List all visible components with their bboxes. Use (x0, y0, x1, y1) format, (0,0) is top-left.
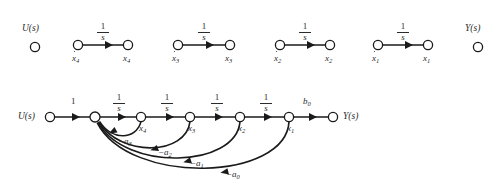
arrowhead-x3-to-x2 (215, 113, 223, 121)
top-node-xdot3 (173, 40, 182, 49)
node-y (328, 112, 337, 121)
top-label-x4: x4 (123, 54, 130, 64)
top-input-node (30, 42, 39, 51)
arrowhead-u-to-sum (72, 113, 80, 121)
bottom-gain-denominator-2: s (211, 104, 223, 113)
bottom-gain-denominator-4: s (113, 104, 125, 113)
top-gain-numerator-4: 1 (97, 22, 109, 31)
top-gain-fraction-1: 1 s (397, 22, 409, 43)
top-node-x1 (423, 40, 432, 49)
top-gain-numerator-3: 1 (198, 22, 210, 31)
bottom-gain-fraction-3: 1 s (161, 93, 173, 114)
bottom-gain-numerator-4: 1 (113, 93, 125, 102)
feedback-arrowhead-a3 (109, 127, 118, 134)
top-node-xdot1 (373, 40, 382, 49)
feedback-label-a2: −a2 (158, 148, 172, 158)
top-node-xdot4 (73, 40, 82, 49)
node-sum (90, 112, 100, 122)
top-label-xdot3: x3 (172, 54, 179, 64)
arrowhead-sum-to-x4 (118, 113, 126, 121)
bottom-label-x2: x2 (238, 124, 245, 134)
top-gain-denominator-3: s (198, 33, 210, 42)
node-x1 (284, 112, 293, 121)
figure-canvas (0, 0, 503, 186)
feedback-label-a0: −a0 (226, 170, 240, 180)
bottom-label-x1: x1 (287, 124, 294, 134)
bottom-gain-numerator-1: 1 (260, 93, 272, 102)
top-gain-fraction-4: 1 s (97, 22, 109, 43)
top-node-x4 (123, 40, 132, 49)
top-output-node (473, 42, 482, 51)
top-gain-denominator-2: s (299, 33, 311, 42)
top-node-x2 (325, 40, 334, 49)
bottom-input-label: U(s) (18, 112, 35, 122)
node-x3 (185, 112, 194, 121)
bottom-output-label: Y(s) (343, 112, 358, 122)
signal-flow-graph-figure: U(s) Y(s) 1 s 1 s 1 s 1 s x4 x4 x3 x3 x2… (0, 0, 503, 186)
bottom-gain-numerator-3: 1 (161, 93, 173, 102)
top-label-xdot2: x2 (274, 54, 281, 64)
bottom-gain-denominator-1: s (260, 104, 272, 113)
top-gain-fraction-3: 1 s (198, 22, 210, 43)
bottom-gain-denominator-3: s (161, 104, 173, 113)
top-input-label: U(s) (22, 24, 39, 34)
top-label-x1: x1 (423, 54, 430, 64)
top-gain-fraction-2: 1 s (299, 22, 311, 43)
arrowhead-x2-to-x1 (264, 113, 272, 121)
top-gain-denominator-1: s (397, 33, 409, 42)
bottom-gain-numerator-2: 1 (211, 93, 223, 102)
top-label-xdot4: x4 (72, 54, 79, 64)
arrowhead-x1-to-y (309, 113, 317, 121)
top-label-x2: x2 (325, 54, 332, 64)
feedback-label-a3: −a3 (118, 137, 132, 147)
top-node-x3 (225, 40, 234, 49)
bottom-label-x4: x4 (139, 124, 146, 134)
top-output-label: Y(s) (465, 24, 480, 34)
top-label-x3: x3 (225, 54, 232, 64)
feedback-label-a1: −a1 (190, 159, 204, 169)
bottom-label-x3: x3 (188, 124, 195, 134)
bottom-gain-b0: b0 (303, 97, 311, 107)
bottom-gain-fraction-4: 1 s (113, 93, 125, 114)
top-label-xdot1: x1 (372, 54, 379, 64)
top-gain-numerator-2: 1 (299, 22, 311, 31)
node-x4 (136, 112, 145, 121)
node-u (45, 112, 54, 121)
bottom-gain-unity: 1 (71, 97, 76, 106)
top-gain-numerator-1: 1 (397, 22, 409, 31)
bottom-gain-fraction-1: 1 s (260, 93, 272, 114)
top-gain-denominator-4: s (97, 33, 109, 42)
bottom-gain-fraction-2: 1 s (211, 93, 223, 114)
node-x2 (235, 112, 244, 121)
arrowhead-x4-to-x3 (166, 113, 174, 121)
top-node-xdot2 (275, 40, 284, 49)
